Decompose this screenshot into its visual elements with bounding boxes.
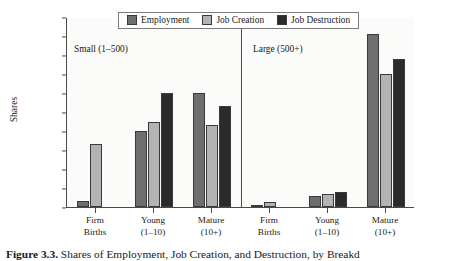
bar-job-creation xyxy=(90,144,102,207)
legend-label: Job Destruction xyxy=(291,15,350,25)
caption-text: Shares of Employment, Job Creation, and … xyxy=(61,248,360,260)
bar-employment xyxy=(193,93,205,207)
bar-job-destruction xyxy=(161,93,173,207)
figure-caption: Figure 3.3. Shares of Employment, Job Cr… xyxy=(6,248,451,261)
chart-legend: EmploymentJob CreationJob Destruction xyxy=(118,12,359,29)
legend-label: Job Creation xyxy=(216,15,264,25)
bar-job-creation xyxy=(206,125,218,207)
legend-swatch-icon xyxy=(202,15,212,25)
bar-job-destruction xyxy=(335,192,347,207)
bar-employment xyxy=(251,205,263,207)
x-tick-mark xyxy=(385,208,386,213)
x-tick-label-line1: Mature xyxy=(345,215,425,227)
legend-swatch-icon xyxy=(277,15,287,25)
bar-job-creation xyxy=(148,122,160,208)
bar-job-creation xyxy=(322,194,334,207)
bar-employment xyxy=(135,131,147,207)
bar-job-destruction xyxy=(393,59,405,207)
bar-employment xyxy=(77,201,89,207)
legend-label: Employment xyxy=(141,15,189,25)
bar-employment xyxy=(309,196,321,207)
legend-item: Employment xyxy=(127,15,189,25)
bar-job-destruction xyxy=(219,106,231,207)
x-tick-label-line2: (10+) xyxy=(345,227,425,239)
bar-employment xyxy=(367,34,379,207)
x-tick-mark xyxy=(269,208,270,213)
panel-note-small: Small (1–500) xyxy=(74,44,128,54)
legend-swatch-icon xyxy=(127,15,137,25)
panel-divider xyxy=(241,18,242,208)
figure-container: 0.500.450.400.350.300.250.200.150.100.05… xyxy=(0,0,451,261)
legend-item: Job Destruction xyxy=(277,15,350,25)
x-tick-mark xyxy=(211,208,212,213)
caption-figure-number: Figure 3.3. xyxy=(6,248,58,260)
x-tick-label: Mature(10+) xyxy=(345,215,425,238)
panel-note-large: Large (500+) xyxy=(253,44,303,54)
x-tick-mark xyxy=(153,208,154,213)
y-axis-label: Shares xyxy=(8,80,19,140)
x-tick-mark xyxy=(327,208,328,213)
x-tick-mark xyxy=(95,208,96,213)
bar-job-creation xyxy=(380,74,392,207)
bar-job-creation xyxy=(264,202,276,207)
legend-item: Job Creation xyxy=(202,15,264,25)
